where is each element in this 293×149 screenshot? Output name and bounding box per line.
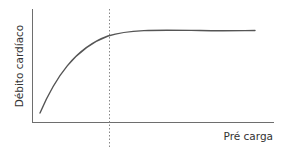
cardiac-output-curve <box>40 30 255 113</box>
y-axis-label: Débito cardíaco <box>13 25 25 108</box>
x-axis-label: Pré carga <box>224 130 273 142</box>
frank-starling-chart: Débito cardíaco Pré carga <box>0 0 293 149</box>
